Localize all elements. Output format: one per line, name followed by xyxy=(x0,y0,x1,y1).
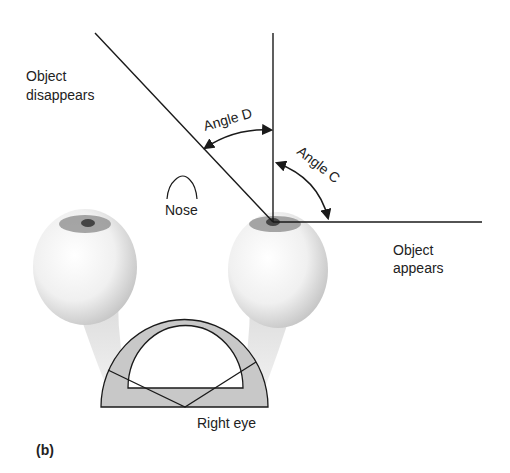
panel-label: (b) xyxy=(36,442,54,458)
nose-label: Nose xyxy=(165,202,198,218)
object-appears-label-line2: appears xyxy=(393,260,444,276)
protractor-icon xyxy=(101,319,268,407)
nose-icon xyxy=(167,176,197,199)
object-disappears-label-line2: disappears xyxy=(26,87,95,103)
object-disappears-label-line1: Object xyxy=(26,68,67,84)
right-eye-label: Right eye xyxy=(197,415,256,431)
angle-c-label: Angle C xyxy=(294,143,343,186)
object-appears-label-line1: Object xyxy=(393,242,434,258)
angle-d-label: Angle D xyxy=(201,105,253,134)
left-pupil-center xyxy=(81,219,95,227)
blind-spot-diagram: Object disappears Angle D Angle C Nose O… xyxy=(0,0,510,473)
angle-d-arc-icon xyxy=(205,130,271,148)
object-disappears-line xyxy=(95,33,273,222)
